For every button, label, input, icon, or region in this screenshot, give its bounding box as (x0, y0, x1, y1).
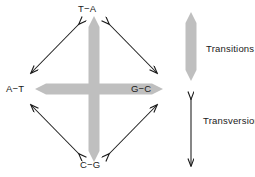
transversion-arrow-bottom-left (31, 105, 79, 154)
transversion-arrow-bottom-right (109, 105, 157, 154)
node-label-right: G−C (131, 84, 151, 94)
node-label-bottom: C−G (80, 160, 100, 170)
node-label-top: T−A (78, 4, 96, 14)
diagram-figure: T−A A−T G−C C−G Transitions Transversion… (0, 0, 255, 177)
transversion-arrow-top-right (109, 24, 157, 73)
node-label-left: A−T (6, 84, 24, 94)
legend-label-transversions: Transversions (203, 116, 255, 126)
thick-grey-double-arrow-icon (186, 12, 197, 81)
legend-symbols (186, 12, 197, 166)
transversion-arrow-top-left (31, 24, 79, 73)
legend-label-transitions: Transitions (206, 44, 254, 54)
diagram-canvas (0, 0, 255, 177)
